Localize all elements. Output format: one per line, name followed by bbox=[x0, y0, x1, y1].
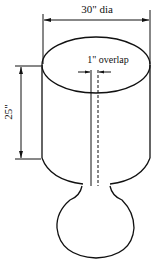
overlap-label: 1" overlap bbox=[87, 54, 129, 65]
diameter-label: 30" dia bbox=[81, 3, 113, 15]
lampshade-diagram: 30" dia 25" 1" overlap bbox=[0, 0, 152, 263]
height-dimension bbox=[15, 66, 41, 159]
height-label: 25" bbox=[2, 104, 14, 120]
lamp-base bbox=[57, 186, 134, 258]
overlap-seam bbox=[78, 70, 111, 186]
